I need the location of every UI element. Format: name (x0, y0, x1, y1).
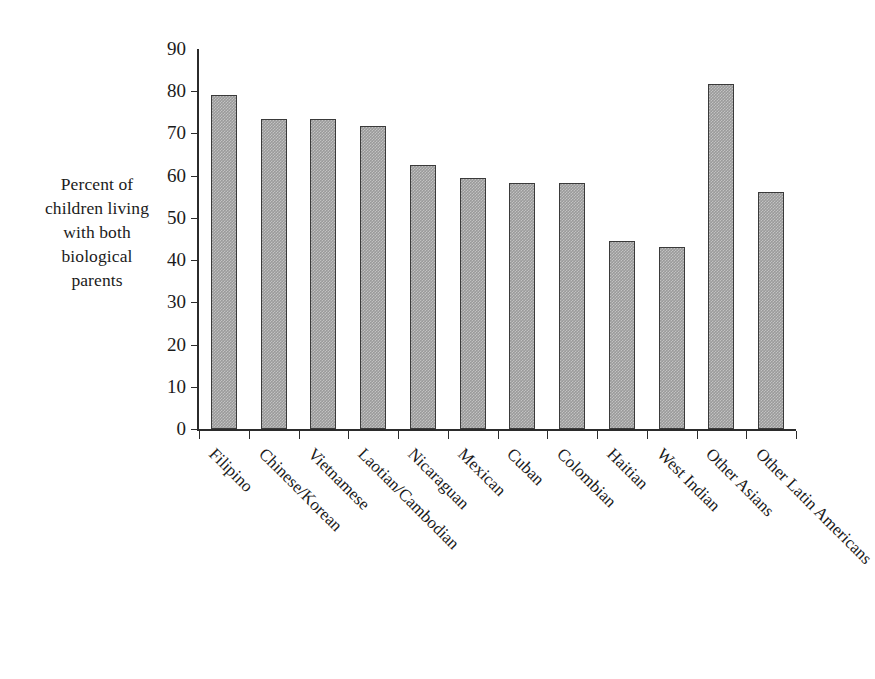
y-tick-mark (191, 91, 198, 92)
y-tick-mark (191, 260, 198, 261)
x-tick-mark (249, 431, 250, 439)
y-tick-label: 50 (152, 208, 186, 227)
x-axis-label: Haitian (604, 445, 651, 492)
x-tick-mark (498, 431, 499, 439)
y-tick-mark (191, 176, 198, 177)
x-tick-mark (746, 431, 747, 439)
bar (310, 119, 336, 429)
bar (659, 247, 685, 429)
y-tick-label: 40 (152, 250, 186, 269)
x-tick-mark (647, 431, 648, 439)
x-axis-line (197, 429, 796, 431)
bar (559, 183, 585, 429)
y-tick-label: 30 (152, 292, 186, 311)
x-axis-label: Cuban (504, 445, 547, 488)
y-tick-label: 20 (152, 335, 186, 354)
y-tick-mark (191, 133, 198, 134)
x-tick-mark (348, 431, 349, 439)
x-tick-mark (796, 431, 797, 439)
y-tick-mark (191, 429, 198, 430)
y-axis-line (197, 49, 199, 431)
y-tick-label: 90 (152, 39, 186, 58)
y-tick-label: 70 (152, 123, 186, 142)
bar (460, 178, 486, 429)
y-tick-mark (191, 345, 198, 346)
bar (410, 165, 436, 429)
x-tick-mark (199, 431, 200, 439)
bar (360, 126, 386, 429)
y-tick-label: 80 (152, 81, 186, 100)
x-tick-mark (398, 431, 399, 439)
bar (261, 119, 287, 429)
y-tick-label: 0 (152, 419, 186, 438)
bar (758, 192, 784, 429)
x-tick-mark (547, 431, 548, 439)
x-tick-mark (597, 431, 598, 439)
x-axis-label: Filipino (206, 445, 256, 495)
x-tick-mark (697, 431, 698, 439)
y-tick-label: 10 (152, 377, 186, 396)
bar (708, 84, 734, 429)
y-tick-label: 60 (152, 166, 186, 185)
x-tick-mark (448, 431, 449, 439)
y-tick-mark (191, 387, 198, 388)
y-tick-mark (191, 302, 198, 303)
bar (509, 183, 535, 429)
bar (211, 95, 237, 429)
bar (609, 241, 635, 429)
x-tick-mark (299, 431, 300, 439)
y-tick-mark (191, 218, 198, 219)
